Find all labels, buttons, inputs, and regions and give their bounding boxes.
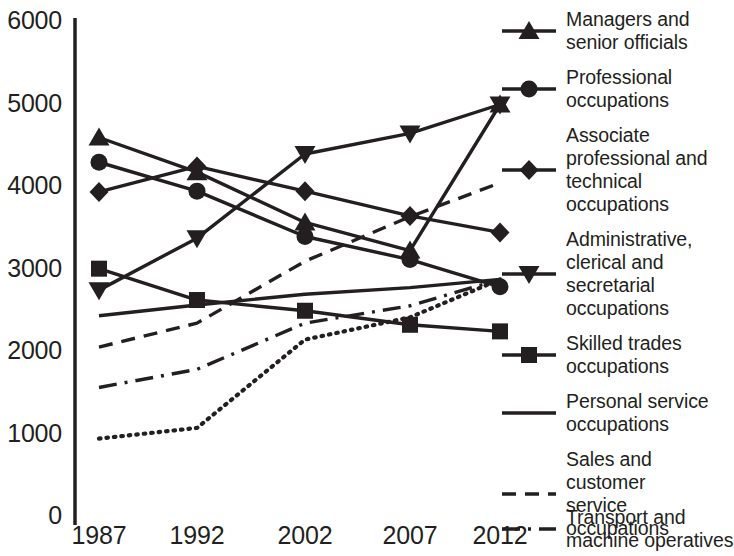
legend-item[interactable]: Professionaloccupations — [500, 66, 734, 112]
plain-solid-key — [500, 390, 558, 436]
legend-label-line: occupations — [566, 413, 709, 436]
legend-label-line: Managers and — [566, 8, 689, 31]
series-line — [91, 261, 508, 340]
legend-key-glyph — [500, 8, 558, 54]
legend-item-label: Skilled tradesoccupations — [558, 332, 682, 378]
y-axis-tick-label: 0 — [0, 501, 62, 530]
legend-label-line: professional and — [566, 147, 708, 170]
legend-label-line: clerical and — [566, 251, 692, 274]
diamond-solid-key — [500, 124, 558, 216]
data-point-marker — [296, 181, 315, 201]
legend-label-line: Associate — [566, 124, 708, 147]
legend-label-line: occupations — [566, 193, 708, 216]
legend-item[interactable]: Skilled tradesoccupations — [500, 332, 734, 378]
data-point-marker — [90, 182, 109, 202]
legend-key-glyph — [500, 228, 558, 320]
y-axis-tick-label: 4000 — [0, 171, 62, 200]
legend-item-label: Managers andsenior officials — [558, 8, 689, 54]
data-point-marker — [521, 347, 537, 363]
data-point-marker — [189, 183, 206, 200]
data-point-marker — [91, 154, 108, 171]
legend-key-glyph — [500, 124, 558, 216]
legend-item[interactable]: Associateprofessional andtechnicaloccupa… — [500, 124, 734, 216]
data-point-marker — [91, 261, 107, 277]
legend-label-line: Skilled trades — [566, 332, 682, 355]
data-point-marker — [295, 212, 316, 230]
series-line — [99, 183, 500, 347]
data-point-marker — [89, 128, 110, 146]
legend-label-line: occupations — [566, 355, 682, 378]
legend-item[interactable]: Transport andmachine operatives — [500, 506, 734, 552]
data-point-marker — [89, 282, 110, 300]
legend-label-line: machine operatives — [566, 529, 733, 552]
legend-key-glyph — [500, 506, 558, 552]
legend-key-glyph — [500, 390, 558, 436]
legend-label-line: technical — [566, 170, 708, 193]
dash-dot-key — [500, 506, 558, 552]
legend-label-line: occupations — [566, 297, 692, 320]
square-solid-key — [500, 332, 558, 378]
data-point-marker — [187, 230, 208, 248]
data-point-marker — [297, 303, 313, 319]
series-path — [99, 183, 500, 347]
chart-legend: Managers andsenior officialsProfessional… — [500, 0, 734, 512]
legend-item[interactable]: Personal serviceoccupations — [500, 390, 734, 436]
y-axis-tick-label: 1000 — [0, 419, 62, 448]
data-point-marker — [521, 81, 538, 98]
legend-item-label: Associateprofessional andtechnicaloccupa… — [558, 124, 708, 216]
legend-item-label: Professionaloccupations — [558, 66, 672, 112]
line-chart: 0100020003000400050006000 19871992200220… — [0, 0, 734, 556]
legend-label-line: Transport and — [566, 506, 733, 529]
y-axis-tick-label: 5000 — [0, 89, 62, 118]
x-axis-tick-label: 1992 — [152, 521, 242, 550]
x-axis-tick-label: 2007 — [365, 521, 455, 550]
legend-item-label: Administrative,clerical andsecretarialoc… — [558, 228, 692, 320]
series-path — [99, 269, 500, 332]
legend-label-line: secretarial — [566, 274, 692, 297]
data-point-marker — [402, 251, 419, 268]
legend-label-line: Administrative, — [566, 228, 692, 251]
legend-label-line: senior officials — [566, 31, 689, 54]
data-point-marker — [520, 160, 539, 180]
y-axis-tick-label: 3000 — [0, 254, 62, 283]
x-axis-tick-label: 1987 — [54, 521, 144, 550]
data-point-marker — [297, 228, 314, 245]
y-axis-tick-label: 6000 — [0, 6, 62, 35]
y-axis-tick-label: 2000 — [0, 336, 62, 365]
legend-item-label: Personal serviceoccupations — [558, 390, 709, 436]
legend-item-label: Transport andmachine operatives — [558, 506, 733, 552]
triangle-down-solid-key — [500, 228, 558, 320]
legend-key-glyph — [500, 332, 558, 378]
circle-solid-key — [500, 66, 558, 112]
legend-label-line: occupations — [566, 89, 672, 112]
series-path — [99, 105, 500, 291]
legend-label-line: Personal service — [566, 390, 709, 413]
x-axis-tick-label: 2002 — [260, 521, 350, 550]
legend-key-glyph — [500, 66, 558, 112]
legend-label-line: Sales and customer — [566, 448, 734, 494]
legend-item[interactable]: Administrative,clerical andsecretarialoc… — [500, 228, 734, 320]
legend-label-line: Professional — [566, 66, 672, 89]
triangle-up-solid-key — [500, 8, 558, 54]
legend-item[interactable]: Managers andsenior officials — [500, 8, 734, 54]
